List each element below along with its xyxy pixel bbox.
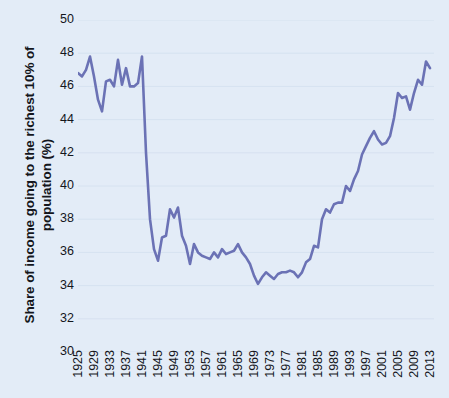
income-share-line-chart: Share of income going to the richest 10%… [0,0,449,398]
x-tick-label: 1941 [135,350,149,378]
x-tick-label: 1953 [183,350,197,378]
x-tick-label: 1993 [343,350,357,378]
y-tick-label: 44 [40,112,74,126]
x-tick-label: 1989 [327,350,341,378]
x-tick-label: 1985 [311,350,325,378]
y-axis-tick-labels: 5048464442403836343230 [40,0,74,398]
x-tick-label: 2009 [407,350,421,378]
y-tick-label: 48 [40,45,74,59]
y-tick-label: 36 [40,244,74,258]
x-tick-label: 1949 [167,350,181,378]
x-tick-label: 2013 [423,350,437,378]
x-tick-label: 1997 [359,350,373,378]
y-tick-label: 46 [40,78,74,92]
x-tick-label: 1969 [247,350,261,378]
y-tick-label: 38 [40,211,74,225]
series-polyline [78,57,430,284]
y-tick-label: 42 [40,145,74,159]
x-tick-label: 1981 [295,350,309,378]
x-tick-label: 1937 [119,350,133,378]
x-tick-label: 1977 [279,350,293,378]
y-tick-label: 34 [40,278,74,292]
data-series-line [78,20,434,352]
x-axis-tick-labels: 1925192919331937194119451949195319571961… [78,350,434,398]
plot-area [78,20,434,352]
y-tick-label: 40 [40,178,74,192]
x-tick-label: 1973 [263,350,277,378]
y-tick-label: 30 [40,344,74,358]
x-tick-label: 1945 [151,350,165,378]
x-tick-label: 1957 [199,350,213,378]
y-tick-label: 32 [40,311,74,325]
x-tick-label: 2005 [391,350,405,378]
y-tick-label: 50 [40,12,74,26]
x-tick-label: 1933 [103,350,117,378]
x-tick-label: 2001 [375,350,389,378]
x-tick-label: 1925 [71,350,85,378]
x-tick-label: 1961 [215,350,229,378]
x-tick-label: 1929 [87,350,101,378]
x-tick-label: 1965 [231,350,245,378]
